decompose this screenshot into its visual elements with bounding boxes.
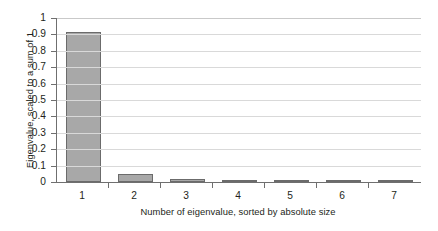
bar [274,180,309,182]
gridline [57,51,421,52]
plot-area [56,18,421,183]
y-tick-label: 0.9 [0,29,46,39]
y-tick-mark [51,149,56,150]
gridline [57,34,421,35]
y-tick-label: 0.1 [0,161,46,171]
y-tick-mark [51,67,56,68]
x-tick-mark [212,183,213,188]
x-tick-label: 4 [215,190,261,202]
y-tick-mark [51,84,56,85]
y-tick-mark [51,100,56,101]
bar [170,179,205,182]
y-tick-label: 0.4 [0,111,46,121]
gridline [57,67,421,68]
y-tick-label: 0.6 [0,79,46,89]
bar [66,32,101,182]
y-tick-label: 0.7 [0,62,46,72]
x-tick-label: 6 [319,190,365,202]
y-tick-label: 0.3 [0,128,46,138]
y-tick-label: 0 [0,177,46,187]
x-tick-label: 2 [111,190,157,202]
x-tick-mark [108,183,109,188]
x-tick-label: 7 [371,190,417,202]
gridline [57,166,421,167]
x-tick-mark [368,183,369,188]
y-tick-label: 1 [0,13,46,23]
y-tick-label: 0.5 [0,95,46,105]
x-tick-mark [264,183,265,188]
y-tick-mark [51,116,56,117]
x-tick-mark [316,183,317,188]
bar [378,180,413,182]
y-tick-mark [51,18,56,19]
gridline [57,149,421,150]
x-tick-label: 1 [59,190,105,202]
bar [222,180,257,182]
y-tick-label: 0.8 [0,46,46,56]
gridline [57,100,421,101]
x-tick-mark [160,183,161,188]
gridline [57,18,421,19]
y-tick-label: 0.2 [0,144,46,154]
y-tick-mark [51,166,56,167]
gridline [57,116,421,117]
bar [326,180,361,182]
y-tick-mark [51,51,56,52]
y-tick-mark [51,182,56,183]
x-axis-title: Number of eigenvalue, sorted by absolute… [56,206,420,218]
scree-plot-chart: Eigenvalue, scaled to a sum of 1 Number … [0,0,438,231]
gridline [57,84,421,85]
y-tick-mark [51,34,56,35]
x-tick-label: 5 [267,190,313,202]
y-tick-mark [51,133,56,134]
x-tick-label: 3 [163,190,209,202]
bar [118,174,153,182]
gridline [57,133,421,134]
